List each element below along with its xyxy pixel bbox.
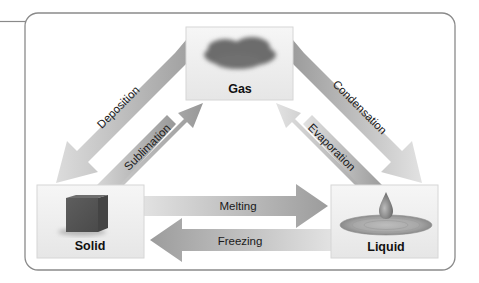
states-of-matter-diagram: Deposition Sublimation Condensation Evap… [0,0,479,283]
melting-label: Melting [219,200,256,212]
freezing-label: Freezing [218,235,263,247]
solid-state-box: Solid [37,185,144,258]
gas-label: Gas [228,82,252,96]
liquid-label: Liquid [367,240,405,254]
liquid-state-box: Liquid [331,185,438,258]
solid-label: Solid [75,239,106,253]
gas-state-box: Gas [186,27,293,100]
